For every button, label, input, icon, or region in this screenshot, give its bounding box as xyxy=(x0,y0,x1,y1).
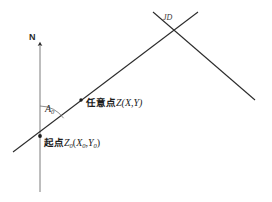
arbitrary-point-marker xyxy=(79,98,82,101)
north-label: N xyxy=(29,33,36,42)
figure-canvas: N A0 JD 任意点Z(X,Y) 起点Z0(X0,Y0) xyxy=(0,0,272,202)
route-descending-line xyxy=(153,12,255,100)
arbitrary-point-cjk-text: 任意点 xyxy=(86,97,116,108)
start-point-cjk-text: 起点 xyxy=(44,137,64,148)
arbitrary-point-coordinates: (X,Y) xyxy=(122,97,143,108)
intersection-label: JD xyxy=(163,14,172,22)
azimuth-subscript: 0 xyxy=(51,108,54,115)
start-point-marker xyxy=(38,134,42,138)
arbitrary-point-label: 任意点Z(X,Y) xyxy=(86,98,142,108)
azimuth-angle-label: A0 xyxy=(45,104,54,116)
start-point-label: 起点Z0(X0,Y0) xyxy=(44,138,100,150)
route-ascending-line xyxy=(13,12,198,152)
start-point-paren-close: ) xyxy=(97,137,100,148)
